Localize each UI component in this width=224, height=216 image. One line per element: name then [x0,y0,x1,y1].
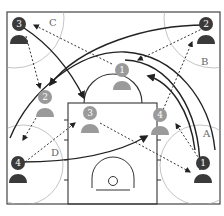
free-throw-circle [84,74,142,103]
player-4-start: 4 [9,156,27,183]
zone-label-a: A [202,128,211,139]
svg-text:2: 2 [203,19,209,29]
cut-4-to-right-lane [20,136,147,162]
svg-text:3: 3 [16,19,22,29]
pass-2-to-1 [138,28,204,60]
pass-1-to-4 [176,124,200,160]
zone-label-d: D [51,147,59,158]
pass-2-to-4 [23,118,36,140]
lane-key [68,103,157,204]
cut-3-to-lane [24,28,84,98]
svg-text:2: 2 [42,92,48,102]
zone-circle-d [0,125,63,205]
lane-hash-marks [64,120,161,180]
player-2-end: 2 [36,90,54,117]
svg-text:1: 1 [119,65,125,75]
player-3-end: 3 [81,106,99,133]
player-1-end: 1 [113,63,131,90]
cut-2-to-left-wing [50,25,205,85]
svg-text:4: 4 [157,110,163,120]
pass-3-to-1-corner [100,123,190,172]
player-3-start: 3 [10,17,28,44]
player-4-end: 4 [151,108,169,135]
svg-text:3: 3 [87,108,93,118]
svg-text:4: 4 [15,158,21,168]
basket-rim [109,177,118,186]
svg-text:1: 1 [200,158,206,168]
zone-label-c: C [49,17,57,28]
zone-circle-a [160,125,224,205]
basketball-court-diagram: C B D A [0,0,224,216]
zone-circle-b [164,0,224,68]
zone-label-b: B [201,56,208,67]
restricted-area-arc [92,157,134,188]
player-1-start: 1 [194,156,212,183]
